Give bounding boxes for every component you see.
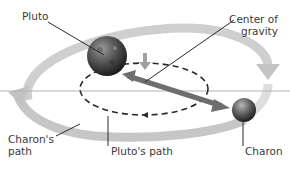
charon-sphere xyxy=(232,98,256,122)
dashed-orbit-arrow-icon xyxy=(142,112,148,118)
label-pluto: Pluto xyxy=(22,10,48,22)
label-charons-path-line2: path xyxy=(8,145,54,157)
label-charon: Charon xyxy=(245,145,283,157)
label-plutos-path: Pluto's path xyxy=(111,145,173,157)
pluto-charon-diagram: Pluto Center of gravity Charon's path Pl… xyxy=(0,0,290,174)
orbit-arrowhead-right-icon xyxy=(256,64,280,80)
label-center-of-gravity-line2: gravity xyxy=(228,25,278,37)
pluto-sphere xyxy=(87,36,127,76)
down-arrow-icon xyxy=(139,53,151,70)
label-center-of-gravity-line1: Center of xyxy=(228,13,278,25)
label-charons-path-line1: Charon's xyxy=(8,133,54,145)
label-center-of-gravity: Center of gravity xyxy=(228,13,278,37)
label-charons-path: Charon's path xyxy=(8,133,54,157)
